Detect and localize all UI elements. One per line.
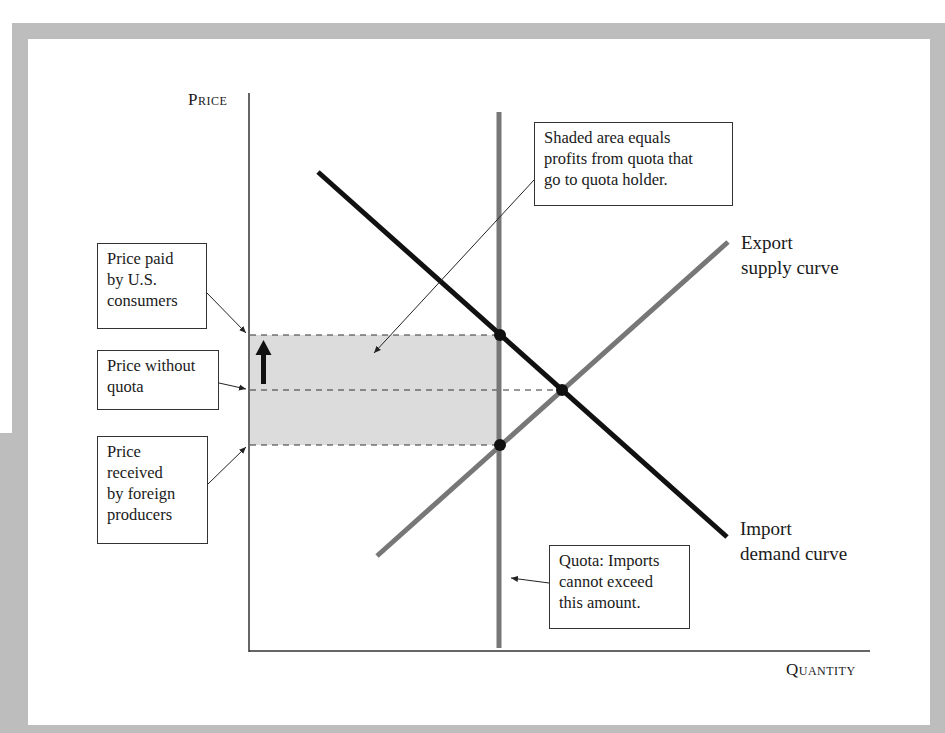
import-demand-label: Import demand curve <box>740 516 847 566</box>
point-equilibrium <box>556 384 568 396</box>
export-supply-label: Export supply curve <box>741 230 839 280</box>
point-quota-supply <box>494 439 506 451</box>
shaded-note-leader <box>374 180 534 353</box>
diagram-canvas: Price Quantity Shaded area equals profit… <box>0 0 945 733</box>
price-received-note: Price received by foreign producers <box>97 436 208 544</box>
quota-note: Quota: Imports cannot exceed this amount… <box>549 545 690 629</box>
price-paid-leader <box>207 293 246 333</box>
price-paid-note: Price paid by U.S. consumers <box>97 243 207 329</box>
y-axis-label: Price <box>188 90 227 110</box>
point-quota-demand <box>494 329 506 341</box>
price-received-leader <box>208 447 246 484</box>
price-without-leader <box>219 383 246 389</box>
shaded-area-note: Shaded area equals profits from quota th… <box>534 122 733 206</box>
price-without-quota-note: Price without quota <box>97 350 219 410</box>
x-axis-label: Quantity <box>786 660 856 680</box>
quota-note-leader <box>511 578 549 583</box>
